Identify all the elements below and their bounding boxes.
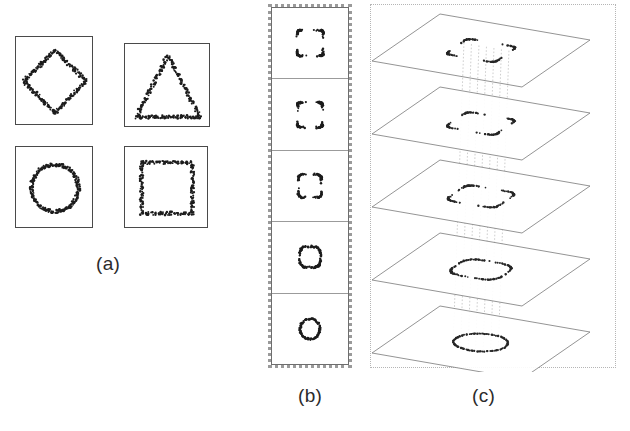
panel-a-shape-samples xyxy=(0,0,250,300)
circle-point-cloud xyxy=(16,147,94,229)
box-triangle xyxy=(124,43,210,127)
plane-3 xyxy=(372,233,590,306)
square-point-cloud xyxy=(125,147,209,229)
box-diamond xyxy=(15,36,93,125)
plane-0 xyxy=(372,14,590,87)
plane-1 xyxy=(372,87,590,160)
box-square xyxy=(124,146,208,228)
morph-cell-3 xyxy=(272,222,348,293)
panel-label-c: (c) xyxy=(472,385,495,407)
circle-outline-4 xyxy=(288,307,332,351)
square-outline-1 xyxy=(288,93,332,137)
morph-cell-2 xyxy=(272,151,348,222)
box-circle xyxy=(15,146,93,228)
panel-b-morph-stack xyxy=(266,2,358,372)
plane-2 xyxy=(372,160,590,233)
plane-4 xyxy=(372,306,590,372)
panel-label-a: (a) xyxy=(96,253,120,275)
morph-cell-4 xyxy=(272,294,348,364)
morph-cell-1 xyxy=(272,79,348,150)
square-outline-0 xyxy=(288,21,332,65)
panel-c-stacked-planes xyxy=(368,2,618,372)
panel-label-b: (b) xyxy=(298,385,322,407)
rounded-square-outline-2 xyxy=(288,164,332,208)
figure-root: (a) (b) (c) xyxy=(0,0,630,431)
stacked-planes-svg xyxy=(368,2,618,372)
morph-cell-0 xyxy=(272,8,348,79)
panel-b-cell-stack xyxy=(271,7,349,365)
circle-outline-3 xyxy=(288,235,332,279)
diamond-point-cloud xyxy=(16,37,94,126)
triangle-point-cloud xyxy=(125,44,211,128)
